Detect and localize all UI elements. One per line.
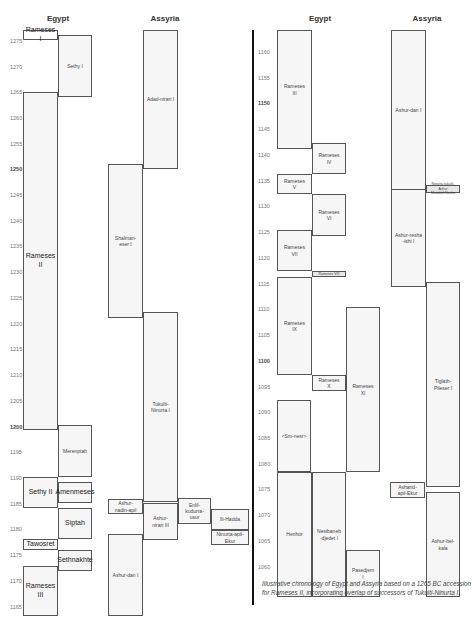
year-tick: 1180 xyxy=(10,526,34,532)
reign-box: Merenptah xyxy=(58,425,92,477)
reign-box: Ashur- nadin-apil xyxy=(108,499,143,514)
reign-box: Adad-nirari I xyxy=(143,30,178,169)
left-assyria-header: Assyria xyxy=(135,14,195,23)
reign-box: Enlil-kudurra- usur xyxy=(178,498,211,524)
reign-box: Rameses XI xyxy=(346,307,380,472)
left-egypt-header: Egypt xyxy=(28,14,88,23)
reign-box: Ninurta-tukulti-Ashur Mutakkil-Nusku xyxy=(426,185,460,193)
reign-box: Siptah xyxy=(58,508,92,539)
figure-caption: Illustrative chronology of Egypt and Ass… xyxy=(262,580,472,597)
right-egypt-header: Egypt xyxy=(290,14,350,23)
reign-box: Rameses III xyxy=(23,566,58,616)
reign-box: Amenmeses xyxy=(58,482,92,503)
year-tick: 1140 xyxy=(258,152,282,158)
reign-box: Ashur- nirari III xyxy=(143,503,178,540)
reign-box: Nesibaneb -djedet I xyxy=(312,472,346,597)
reign-box: Rameses I xyxy=(23,30,58,40)
reign-box: Rameses VI xyxy=(312,194,346,236)
reign-box: Tukulti- Ninurta I xyxy=(143,312,178,502)
reign-box: Rameses V xyxy=(277,174,312,194)
reign-box: Sethy I xyxy=(58,35,92,97)
reign-box: Tiglath- Pileser I xyxy=(426,282,460,487)
reign-box: Ashur-dan I xyxy=(391,30,426,190)
reign-box: Rameses IX xyxy=(277,277,312,375)
reign-box: <Sm-nesr> xyxy=(277,400,311,472)
right-assyria-header: Assyria xyxy=(397,14,457,23)
year-tick: 1270 xyxy=(10,64,34,70)
reign-box: Shalman- eser I xyxy=(108,164,143,318)
reign-box: Sethnakhte xyxy=(58,550,92,571)
reign-box: Rameses VII xyxy=(277,230,312,271)
year-tick: 1095 xyxy=(258,384,282,390)
reign-box: Rameses X xyxy=(312,375,346,391)
reign-box: Rameses VIII xyxy=(312,271,346,277)
panel-divider xyxy=(252,30,254,605)
reign-box: Herihor xyxy=(277,472,312,597)
reign-box: Ashur-resha -ishi I xyxy=(391,189,426,287)
reign-box: Ili-Hadda xyxy=(211,509,249,530)
reign-box: Rameses III xyxy=(277,30,312,149)
reign-box: Rameses II xyxy=(23,92,58,430)
year-tick: 1130 xyxy=(258,203,282,209)
year-tick: 1175 xyxy=(10,552,34,558)
reign-box: Rameses IV xyxy=(312,143,346,174)
reign-box: Sethy II xyxy=(23,477,58,508)
reign-box: Ashur-dan I xyxy=(108,534,143,616)
year-tick: 1195 xyxy=(10,449,34,455)
reign-box: Asharid- apil-Ekur xyxy=(390,482,425,498)
reign-box: Ninurta-apil- Ekur xyxy=(211,530,249,545)
reign-box: Tawosret xyxy=(23,539,58,550)
